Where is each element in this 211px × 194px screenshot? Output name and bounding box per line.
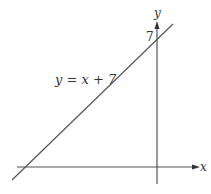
- x-axis-label: x: [200, 161, 207, 173]
- coordinate-plot: y = x + 7 7 y x: [0, 0, 211, 194]
- line-y-equals-x-plus-7: [12, 24, 173, 180]
- y-axis-arrow-icon: [155, 21, 160, 29]
- y-axis-label: y: [154, 7, 161, 19]
- plot-svg: [0, 0, 211, 194]
- x-axis-arrow-icon: [192, 165, 200, 170]
- y-intercept-label: 7: [146, 31, 154, 43]
- equation-label: y = x + 7: [55, 73, 116, 86]
